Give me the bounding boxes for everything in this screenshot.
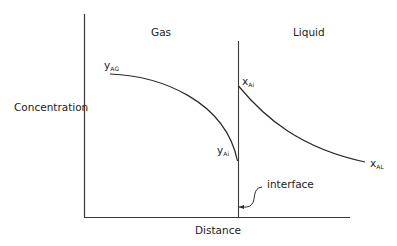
var-x-ai: xAi — [242, 76, 254, 88]
x-axis-label: Distance — [195, 225, 241, 236]
diagram-canvas: Gas Liquid Concentration Distance interf… — [0, 0, 397, 246]
interface-pointer — [239, 187, 262, 207]
liquid-region-label: Liquid — [293, 27, 325, 38]
var-y-ai: yAi — [217, 145, 229, 157]
y-axis-label: Concentration — [14, 102, 88, 113]
var-y-ag: yAG — [104, 60, 119, 72]
var-x-al: xAL — [370, 158, 384, 170]
arrowhead-icon — [239, 205, 244, 209]
liquid-phase-curve — [239, 86, 366, 162]
gas-region-label: Gas — [151, 27, 171, 38]
interface-label: interface — [267, 179, 314, 190]
